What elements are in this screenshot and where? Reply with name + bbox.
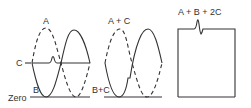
sum-waveform [178, 20, 235, 97]
label-b: B [33, 85, 39, 95]
label-a-plus-c: A + C [108, 16, 131, 26]
label-a: A [43, 16, 49, 26]
wave-a-plus-c-dashed [105, 29, 162, 97]
label-zero: Zero [8, 93, 27, 103]
waveform-diagram: A C B Zero A + C B+C A + B + 2C [0, 0, 251, 108]
label-b-plus-c: B+C [92, 85, 110, 95]
label-c: C [16, 58, 23, 68]
panel-3 [178, 20, 235, 97]
panel-2 [104, 29, 162, 97]
wave-b-plus-c-solid [105, 29, 162, 97]
label-a-plus-b-plus-2c: A + B + 2C [178, 7, 222, 17]
